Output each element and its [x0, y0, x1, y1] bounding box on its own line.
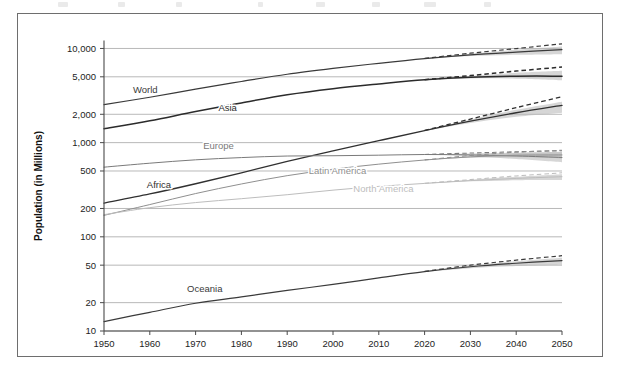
- y-tick-label: 10: [85, 325, 96, 336]
- figure-canvas: 1020501002005001,0002,0005,00010,000 195…: [0, 0, 623, 380]
- y-tick-label: 50: [85, 260, 96, 271]
- axis-lines-group: [104, 41, 562, 332]
- series-label: Oceania: [187, 283, 223, 294]
- x-tick-label: 2030: [460, 338, 481, 349]
- series-label: Latin America: [309, 165, 367, 176]
- series-line: [104, 76, 562, 129]
- y-tick-label: 10,000: [67, 43, 96, 54]
- x-tick-label: 1970: [185, 338, 206, 349]
- y-tick-label: 200: [80, 203, 96, 214]
- y-tick-label: 5,000: [72, 71, 96, 82]
- x-axis-tick-labels-group: 1950196019701980199020002010202020302040…: [93, 331, 572, 349]
- y-axis-tick-labels-group: 1020501002005001,0002,0005,00010,000: [67, 43, 104, 337]
- y-axis-title: Population (in Millions): [33, 131, 44, 241]
- y-tick-label: 2,000: [72, 109, 96, 120]
- series-lines-group: [104, 50, 562, 322]
- x-tick-label: 1980: [231, 338, 252, 349]
- series-label: Europe: [203, 140, 234, 151]
- x-tick-label: 2020: [414, 338, 435, 349]
- y-tick-label: 20: [85, 297, 96, 308]
- series-label: Asia: [218, 102, 237, 113]
- x-tick-label: 2010: [368, 338, 389, 349]
- series-line: [104, 177, 562, 215]
- population-projection-line-chart: 1020501002005001,0002,0005,00010,000 195…: [0, 0, 623, 380]
- x-tick-label: 2000: [322, 338, 343, 349]
- series-label: North America: [353, 183, 414, 194]
- series-label: World: [133, 84, 158, 95]
- x-tick-label: 1990: [277, 338, 298, 349]
- x-tick-label: 1960: [139, 338, 160, 349]
- y-tick-label: 500: [80, 165, 96, 176]
- y-tick-label: 100: [80, 231, 96, 242]
- y-tick-label: 1,000: [72, 137, 96, 148]
- x-tick-label: 2040: [506, 338, 527, 349]
- plot-area-wrapper: 1020501002005001,0002,0005,00010,000 195…: [0, 0, 623, 380]
- x-tick-label: 1950: [93, 338, 114, 349]
- uncertainty-bands-group: [425, 46, 562, 271]
- x-tick-label: 2050: [551, 338, 572, 349]
- series-label: Africa: [147, 179, 172, 190]
- series-line: [104, 261, 562, 322]
